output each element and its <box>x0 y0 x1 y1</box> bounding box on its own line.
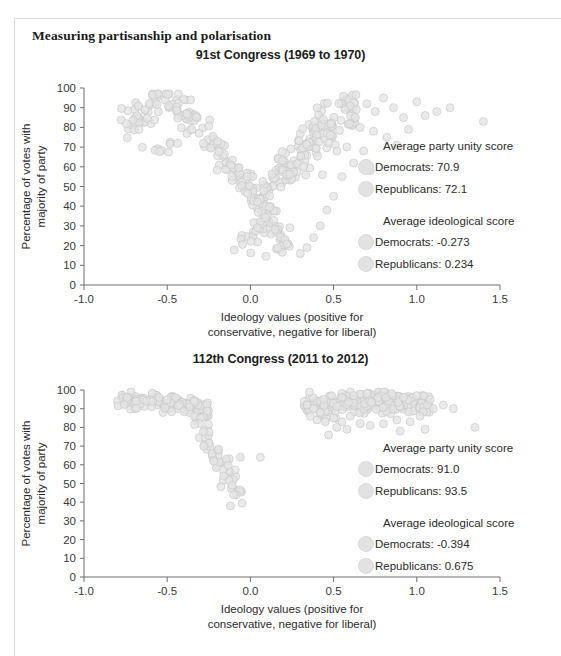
svg-text:majority of party: majority of party <box>35 442 47 524</box>
svg-text:1.0: 1.0 <box>409 585 425 597</box>
svg-text:Percentage of votes with: Percentage of votes with <box>20 421 32 547</box>
svg-text:90: 90 <box>63 403 76 415</box>
svg-text:Democrats: 91.0: Democrats: 91.0 <box>375 463 459 475</box>
svg-text:Average ideological score: Average ideological score <box>383 517 514 529</box>
svg-text:80: 80 <box>63 421 76 433</box>
svg-text:Republicans: 0.675: Republicans: 0.675 <box>375 560 473 572</box>
svg-text:Republicans: 93.5: Republicans: 93.5 <box>375 485 467 497</box>
svg-text:Democrats: -0.394: Democrats: -0.394 <box>375 538 470 550</box>
svg-text:70: 70 <box>63 440 76 452</box>
svg-text:0.0: 0.0 <box>242 585 258 597</box>
svg-text:Average party unity score: Average party unity score <box>383 442 513 454</box>
svg-text:0.5: 0.5 <box>326 585 342 597</box>
svg-text:-1.0: -1.0 <box>74 585 94 597</box>
svg-text:conservative, negative for lib: conservative, negative for liberal) <box>208 618 377 630</box>
svg-text:60: 60 <box>63 459 76 471</box>
svg-text:10: 10 <box>63 552 76 564</box>
svg-text:Ideology values (positive for: Ideology values (positive for <box>221 603 364 615</box>
svg-text:-0.5: -0.5 <box>157 585 177 597</box>
svg-text:100: 100 <box>57 384 76 396</box>
svg-text:20: 20 <box>63 534 76 546</box>
scatter-plot-112th: 0102030405060708090100-1.0-0.50.00.51.01… <box>0 0 561 656</box>
svg-text:50: 50 <box>63 478 76 490</box>
svg-text:30: 30 <box>63 515 76 527</box>
svg-text:40: 40 <box>63 496 76 508</box>
svg-text:1.5: 1.5 <box>492 585 508 597</box>
svg-text:0: 0 <box>70 571 76 583</box>
